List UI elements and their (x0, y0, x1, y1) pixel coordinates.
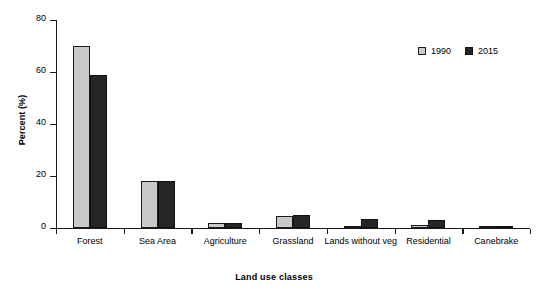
bar-2015-sea-area (158, 181, 175, 228)
bar-group (344, 20, 378, 228)
bar-group (73, 20, 107, 228)
y-tick: 20 (50, 176, 56, 177)
legend-label-2015: 2015 (478, 46, 498, 56)
bar-group (141, 20, 175, 228)
bar-1990-residential (411, 225, 428, 228)
x-tick (56, 229, 57, 234)
x-axis-title: Land use classes (0, 272, 548, 282)
bar-2015-lands-without-veg (361, 219, 378, 228)
bar-1990-lands-without-veg (344, 226, 361, 228)
x-tick (327, 229, 328, 234)
bar-group (276, 20, 310, 228)
legend-swatch-1990 (418, 47, 426, 55)
x-tick (191, 229, 192, 234)
x-tick (462, 229, 463, 234)
chart-legend: 1990 2015 (418, 46, 498, 56)
x-tick (124, 229, 125, 234)
legend-item-2015: 2015 (465, 46, 498, 56)
legend-label-1990: 1990 (431, 46, 451, 56)
x-category-label: Canebrake (442, 236, 548, 247)
bar-1990-agriculture (208, 223, 225, 228)
y-tick-label: 20 (36, 169, 46, 179)
legend-item-1990: 1990 (418, 46, 451, 56)
y-tick-label: 0 (41, 221, 46, 231)
bar-1990-forest (73, 46, 90, 228)
bar-2015-grassland (293, 215, 310, 228)
y-tick: 40 (50, 124, 56, 125)
bar-2015-residential (428, 220, 445, 228)
legend-swatch-2015 (465, 47, 473, 55)
bar-1990-sea-area (141, 181, 158, 228)
bar-2015-agriculture (225, 223, 242, 228)
y-tick-label: 40 (36, 117, 46, 127)
y-tick-label: 60 (36, 65, 46, 75)
x-tick (530, 229, 531, 234)
y-axis-title: Percent (%) (17, 60, 27, 180)
bar-1990-grassland (276, 216, 293, 228)
bar-1990-canebrake (479, 226, 496, 228)
x-tick (395, 229, 396, 234)
bar-chart-figure: Percent (%) 020406080 ForestSea AreaAgri… (0, 0, 548, 294)
x-tick (259, 229, 260, 234)
bar-group (208, 20, 242, 228)
y-axis-line (56, 20, 57, 229)
x-axis-line (56, 228, 530, 229)
y-tick: 80 (50, 20, 56, 21)
bar-2015-forest (90, 75, 107, 228)
bar-2015-canebrake (496, 226, 513, 228)
y-tick-label: 80 (36, 13, 46, 23)
y-tick: 60 (50, 72, 56, 73)
